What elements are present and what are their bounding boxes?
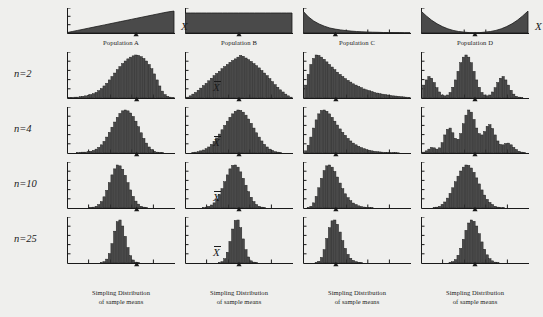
caption-line-2: of sample means: [407, 298, 543, 307]
x-bar-axis-label: X: [213, 81, 221, 93]
sampling-distribution-plot: [303, 107, 411, 154]
row-label-n-2: n=2: [14, 68, 32, 79]
population-label: Population C: [303, 39, 411, 46]
sampling-distribution-plot: [185, 107, 293, 154]
caption-line-1: Simpling Distribution: [171, 289, 307, 298]
caption-line-1: Simpling Distribution: [407, 289, 543, 298]
sampling-distribution-plot: [421, 52, 529, 99]
caption-line-2: of sample means: [171, 298, 307, 307]
caption-line-2: of sample means: [289, 298, 425, 307]
column-caption: Simpling Distributionof sample means: [171, 289, 307, 306]
sampling-distribution-plot: [421, 217, 529, 264]
row-label-n-25: n=25: [14, 233, 37, 244]
sampling-distribution-plot: [303, 217, 411, 264]
sampling-distribution-plot: [185, 52, 293, 99]
sampling-distribution-plot: [303, 52, 411, 99]
sampling-distribution-plot: [185, 162, 293, 209]
sampling-distribution-plot: [303, 162, 411, 209]
x-bar-glyph: X: [213, 136, 220, 148]
population-plot-a: [67, 8, 175, 34]
x-axis-label: X: [535, 20, 542, 32]
population-label: Population D: [421, 39, 529, 46]
caption-line-1: Simpling Distribution: [289, 289, 425, 298]
sampling-distribution-plot: [421, 162, 529, 209]
x-bar-axis-label: X: [213, 136, 221, 148]
population-label: Population B: [185, 39, 293, 46]
caption-line-1: Simpling Distribution: [53, 289, 189, 298]
population-plot-c: [303, 8, 411, 34]
x-bar-glyph: X: [213, 246, 220, 258]
x-bar-glyph: X: [213, 191, 220, 203]
population-plot-d: [421, 8, 529, 34]
x-axis-label: X: [181, 20, 188, 32]
sampling-distribution-plot: [67, 52, 175, 99]
x-bar-axis-label: X: [213, 191, 221, 203]
sampling-distribution-plot: [421, 107, 529, 154]
caption-line-2: of sample means: [53, 298, 189, 307]
column-caption: Simpling Distributionof sample means: [53, 289, 189, 306]
sampling-distribution-plot: [67, 107, 175, 154]
sampling-distribution-plot: [67, 217, 175, 264]
x-bar-axis-label: X: [213, 246, 221, 258]
sampling-distribution-plot: [185, 217, 293, 264]
column-caption: Simpling Distributionof sample means: [407, 289, 543, 306]
population-plot-b: [185, 8, 293, 34]
x-bar-glyph: X: [213, 81, 220, 93]
population-label: Population A: [67, 39, 175, 46]
row-label-n-4: n=4: [14, 123, 32, 134]
sampling-distribution-plot: [67, 162, 175, 209]
column-caption: Simpling Distributionof sample means: [289, 289, 425, 306]
row-label-n-10: n=10: [14, 178, 37, 189]
